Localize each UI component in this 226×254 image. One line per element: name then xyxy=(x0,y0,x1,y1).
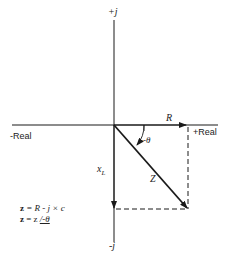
equation-line-1: z = R - j × c xyxy=(20,203,65,213)
reactance-label: xL xyxy=(97,163,105,177)
impedance-vector xyxy=(114,125,187,208)
eq2-angle: /-θ xyxy=(40,214,50,224)
reactance-subscript: L xyxy=(101,169,105,177)
negative-imag-label: -j xyxy=(109,240,115,251)
resistance-label: R xyxy=(166,112,172,123)
negative-real-label: -Real xyxy=(10,131,32,141)
positive-real-label: +Real xyxy=(193,127,217,137)
positive-imag-label: +j xyxy=(108,6,118,17)
equation-line-2: z = z /-θ xyxy=(20,214,50,224)
eq2-mid: = z xyxy=(24,214,40,224)
angle-label: -θ xyxy=(143,135,150,145)
eq1-rhs: = R - j × c xyxy=(24,203,65,213)
impedance-label: Z xyxy=(150,173,156,184)
